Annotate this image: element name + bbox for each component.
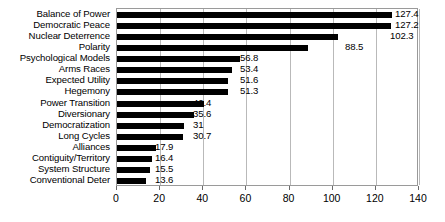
category-label: Power Transition <box>0 98 110 108</box>
bar <box>117 134 183 140</box>
bar <box>117 67 232 73</box>
bar <box>117 45 308 51</box>
category-label: Democratization <box>0 120 110 130</box>
bar-value-label: 53.4 <box>240 64 258 74</box>
x-tick-mark <box>202 186 203 190</box>
bar-value-label: 40.4 <box>193 98 211 108</box>
category-label: Conventional Deter <box>0 175 110 185</box>
category-label: System Structure <box>0 164 110 174</box>
bar-value-label: 17.9 <box>155 142 173 152</box>
x-tick-mark <box>116 186 117 190</box>
x-tick-label: 40 <box>196 192 208 204</box>
bar-value-label: 15.5 <box>155 164 173 174</box>
bar <box>117 23 391 29</box>
x-tick-label: 100 <box>323 192 341 204</box>
bar <box>117 34 338 40</box>
bar-value-label: 30.7 <box>193 131 211 141</box>
bar <box>117 78 228 84</box>
x-tick-label: 140 <box>409 192 427 204</box>
gridline <box>376 9 377 185</box>
bar-value-label: 35.6 <box>193 109 211 119</box>
category-axis: Balance of PowerDemocratic PeaceNuclear … <box>0 8 113 186</box>
bar <box>117 167 150 173</box>
bar <box>117 178 146 184</box>
x-tick-mark <box>289 186 290 190</box>
x-tick-label: 0 <box>113 192 119 204</box>
bar <box>117 101 204 107</box>
category-label: Long Cycles <box>0 131 110 141</box>
bar-value-label: 16.4 <box>155 153 173 163</box>
x-tick-mark <box>332 186 333 190</box>
bar-value-label: 88.5 <box>345 42 363 52</box>
category-label: Expected Utility <box>0 75 110 85</box>
gridline <box>419 9 420 185</box>
x-tick-label: 20 <box>153 192 165 204</box>
category-label: Balance of Power <box>0 9 110 19</box>
category-label: Polarity <box>0 42 110 52</box>
bar <box>117 112 194 118</box>
bar <box>117 156 152 162</box>
bar <box>117 89 228 95</box>
x-tick-mark <box>375 186 376 190</box>
bar-value-label: 13.6 <box>155 175 173 185</box>
bar-value-label: 127.4 <box>395 9 419 19</box>
category-label: Nuclear Deterrence <box>0 31 110 41</box>
bar <box>117 123 184 129</box>
bar-value-label: 51.6 <box>240 75 258 85</box>
category-label: Alliances <box>0 142 110 152</box>
bar-value-label: 102.3 <box>390 31 414 41</box>
bar-value-label: 56.8 <box>240 53 258 63</box>
x-tick-mark <box>418 186 419 190</box>
bar-chart: Balance of PowerDemocratic PeaceNuclear … <box>0 0 445 222</box>
x-axis: 020406080100120140 <box>116 186 418 206</box>
x-tick-label: 120 <box>366 192 384 204</box>
category-label: Contiguity/Territory <box>0 153 110 163</box>
bar-value-label: 51.3 <box>240 86 258 96</box>
bar <box>117 145 156 151</box>
bar-value-label: 31 <box>193 120 203 130</box>
category-label: Diversionary <box>0 109 110 119</box>
bar-value-label: 127.2 <box>395 20 419 30</box>
category-label: Hegemony <box>0 86 110 96</box>
category-label: Psychological Models <box>0 53 110 63</box>
x-tick-mark <box>159 186 160 190</box>
category-label: Democratic Peace <box>0 20 110 30</box>
x-tick-label: 80 <box>283 192 295 204</box>
x-tick-label: 60 <box>240 192 252 204</box>
category-label: Arms Races <box>0 64 110 74</box>
bar <box>117 12 392 18</box>
x-tick-mark <box>245 186 246 190</box>
bar <box>117 56 240 62</box>
